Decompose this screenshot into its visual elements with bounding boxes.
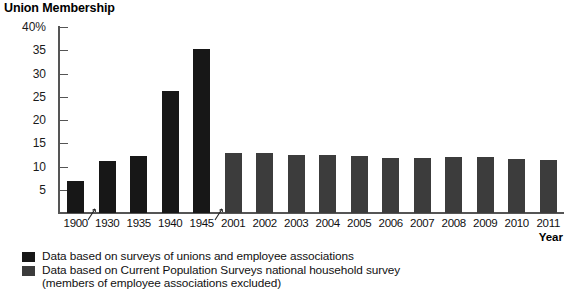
bar-slot-2006: [375, 27, 407, 213]
bar-2007: [414, 158, 431, 213]
bar-1945: [193, 49, 210, 213]
y-tick-label-15: 15: [0, 137, 46, 149]
x-label-2007: 2007: [407, 216, 439, 232]
bar-1935: [130, 156, 147, 213]
bar-slot-2003: [281, 27, 313, 213]
bar-2011: [540, 160, 557, 213]
bar-2005: [351, 156, 368, 213]
y-tick-label-20: 20: [0, 114, 46, 126]
x-label-2009: 2009: [470, 216, 502, 232]
chart-legend: Data based on surveys of unions and empl…: [22, 250, 562, 291]
x-label-1900: 1900: [60, 216, 92, 232]
x-label-2001: 2001: [218, 216, 250, 232]
legend-item-cps: Data based on Current Population Surveys…: [22, 264, 562, 278]
bar-slot-1900: [60, 27, 92, 213]
x-label-2010: 2010: [501, 216, 533, 232]
x-label-2008: 2008: [438, 216, 470, 232]
bar-slot-2011: [533, 27, 565, 213]
legend-item-union-surveys: Data based on surveys of unions and empl…: [22, 250, 562, 264]
legend-sub-note: (members of employee associations exclud…: [42, 277, 562, 291]
legend-swatch-union-surveys: [22, 252, 35, 262]
bar-2008: [445, 157, 462, 213]
bar-1930: [99, 161, 116, 213]
bar-slot-2010: [501, 27, 533, 213]
union-membership-chart: Union Membership 40%3530252015105 190019…: [0, 0, 570, 300]
bar-slot-1945: [186, 27, 218, 213]
bar-2004: [319, 155, 336, 213]
bar-slot-2007: [407, 27, 439, 213]
bar-2009: [477, 157, 494, 213]
x-label-2006: 2006: [375, 216, 407, 232]
x-axis-labels: 1900193019351940194520012002200320042005…: [60, 216, 564, 232]
bar-slot-2002: [249, 27, 281, 213]
y-tick-label-30: 30: [0, 68, 46, 80]
x-label-1930: 1930: [92, 216, 124, 232]
bar-slot-1940: [155, 27, 187, 213]
bar-slot-2008: [438, 27, 470, 213]
x-label-2004: 2004: [312, 216, 344, 232]
x-axis-title: Year: [539, 231, 563, 243]
bar-slot-2004: [312, 27, 344, 213]
y-tick-label-35: 35: [0, 44, 46, 56]
bar-slot-1935: [123, 27, 155, 213]
y-tick-label-10: 10: [0, 161, 46, 173]
bar-2001: [225, 153, 242, 213]
legend-swatch-cps: [22, 266, 35, 276]
x-label-2002: 2002: [249, 216, 281, 232]
bar-2002: [256, 153, 273, 213]
x-label-2005: 2005: [344, 216, 376, 232]
x-label-2003: 2003: [281, 216, 313, 232]
x-label-1940: 1940: [155, 216, 187, 232]
bar-2010: [508, 159, 525, 213]
chart-title: Union Membership: [4, 1, 115, 15]
x-label-1945: 1945: [186, 216, 218, 232]
bar-1900: [67, 181, 84, 213]
bar-1940: [162, 91, 179, 213]
y-tick-label-25: 25: [0, 91, 46, 103]
bar-2006: [382, 158, 399, 213]
x-label-2011: 2011: [533, 216, 565, 232]
bar-slot-1930: [92, 27, 124, 213]
legend-label-cps: Data based on Current Population Surveys…: [42, 264, 400, 278]
y-tick-label-5: 5: [0, 184, 46, 196]
legend-label-union-surveys: Data based on surveys of unions and empl…: [42, 250, 354, 264]
bar-series-group: [60, 27, 564, 213]
bar-slot-2001: [218, 27, 250, 213]
bar-slot-2005: [344, 27, 376, 213]
x-label-1935: 1935: [123, 216, 155, 232]
bar-2003: [288, 155, 305, 213]
y-tick-label-40: 40%: [0, 21, 46, 33]
bar-slot-2009: [470, 27, 502, 213]
